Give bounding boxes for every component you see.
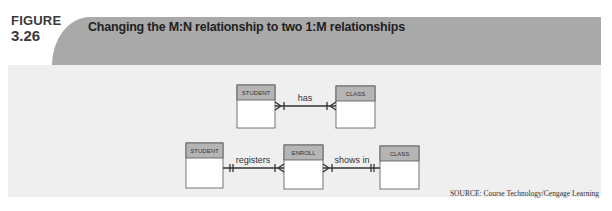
- entity-name: CLASS: [390, 151, 410, 157]
- entity-name: ENROLL: [291, 150, 316, 156]
- entity-class-top: CLASS: [336, 86, 375, 128]
- entity-class-bottom: CLASS: [380, 146, 419, 189]
- entity-enroll: ENROLL: [284, 145, 323, 189]
- relationship-label-shows-in: shows in: [334, 155, 369, 165]
- relationship-registers: [223, 164, 284, 172]
- entity-name: CLASS: [346, 91, 366, 97]
- er-diagram: STUDENT CLASS has STUDENT ENROLL CLASS: [0, 0, 612, 211]
- entity-name: STUDENT: [190, 148, 219, 154]
- source-credit: SOURCE: Course Technology/Cengage Learni…: [450, 189, 599, 198]
- entity-name: STUDENT: [242, 90, 271, 96]
- relationship-shows-in: [323, 164, 380, 172]
- relationship-has: [275, 102, 336, 110]
- entity-student-bottom: STUDENT: [186, 143, 223, 188]
- relationship-label-has: has: [298, 93, 313, 103]
- relationship-label-registers: registers: [236, 155, 271, 165]
- entity-student-top: STUDENT: [237, 85, 275, 128]
